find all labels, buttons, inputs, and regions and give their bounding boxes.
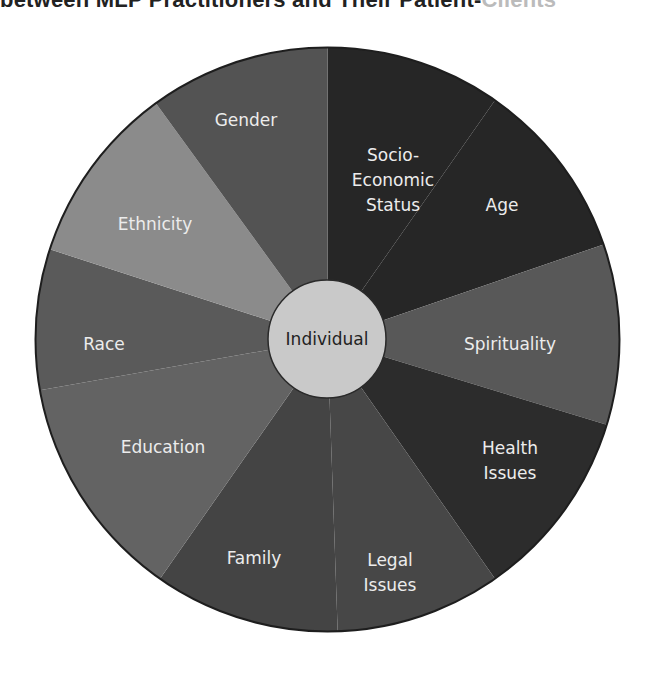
segment-label-spirituality: Spirituality [464,334,556,354]
segment-label-ethnicity: Ethnicity [118,214,192,234]
segment-label-race: Race [83,334,125,354]
segment-label-education: Education [121,437,206,457]
center-label: Individual [286,329,369,349]
segment-label-gender: Gender [215,110,278,130]
individual-factors-wheel: Socio-EconomicStatusAgeSpiritualityHealt… [0,0,651,673]
segment-label-age: Age [486,195,519,215]
segment-label-family: Family [227,548,282,568]
